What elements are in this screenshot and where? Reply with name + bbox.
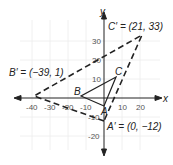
vertex-label-c-prime: C′ = (21, 33) [108, 21, 163, 32]
vertex-label-a: A [100, 106, 108, 117]
x-tick-label: 20 [136, 103, 145, 112]
x-tick-label: -40 [26, 103, 38, 112]
x-tick-labels: -40 -30 -20 -10 10 20 [26, 103, 145, 112]
x-axis-right-arrow-icon [155, 96, 162, 101]
coordinate-plane: x y -40 -30 -20 -10 10 20 30 20 10 -10 -… [0, 0, 173, 165]
vertex-label-b: B [74, 86, 81, 97]
vertex-label-b-prime: B′ = (−39, 1) [9, 67, 64, 78]
y-tick-label: -20 [88, 132, 100, 141]
y-axis-label: y [99, 6, 106, 17]
x-tick-label: 10 [118, 103, 127, 112]
y-axis-down-arrow-icon [102, 149, 107, 156]
x-axis-left-arrow-icon [14, 96, 21, 101]
y-tick-label: 30 [92, 37, 101, 46]
vertex-label-a-prime: A′ = (0, −12) [106, 121, 162, 132]
x-tick-label: -30 [44, 103, 56, 112]
x-axis-label: x [162, 93, 169, 104]
x-tick-label: -10 [80, 103, 92, 112]
y-tick-label: 10 [92, 75, 101, 84]
vertex-label-c: C [115, 66, 123, 77]
